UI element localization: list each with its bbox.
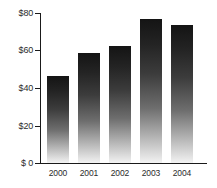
bar-2004: [171, 25, 193, 163]
y-axis-tick-60: [35, 50, 40, 51]
y-axis-label-20: $20: [0, 122, 33, 131]
y-axis-label-40: $40: [0, 84, 33, 93]
bar-2003: [140, 19, 162, 163]
y-axis-line: [40, 13, 41, 164]
x-axis-label-2004: 2004: [162, 169, 202, 178]
y-axis-label-60: $60: [0, 46, 33, 55]
y-axis-tick-80: [35, 13, 40, 14]
y-axis-tick-20: [35, 126, 40, 127]
y-axis-tick-40: [35, 88, 40, 89]
bar-chart: $80 $60 $40 $20 $ 0 2000 2001 2002 2003 …: [0, 0, 217, 188]
x-axis-line: [40, 163, 207, 164]
bar-2000: [47, 76, 69, 163]
y-axis-label-0: $ 0: [0, 159, 33, 168]
bar-2002: [109, 46, 131, 163]
y-axis-label-80: $80: [0, 9, 33, 18]
y-axis-labels: $80 $60 $40 $20 $ 0: [0, 0, 33, 188]
bar-2001: [78, 53, 100, 163]
